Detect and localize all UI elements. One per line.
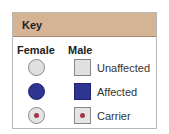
female-unaffected-icon xyxy=(28,59,45,76)
male-carrier-icon xyxy=(74,107,91,124)
carrier-dot-icon xyxy=(34,113,39,118)
carrier-dot-icon xyxy=(80,113,85,118)
female-carrier-icon xyxy=(28,107,45,124)
pedigree-key: Key Female Male Unaffected Affected Carr… xyxy=(12,12,157,129)
female-column-header: Female xyxy=(17,44,55,56)
male-column-header: Male xyxy=(68,44,92,56)
affected-label: Affected xyxy=(97,86,137,98)
male-affected-icon xyxy=(74,83,91,100)
unaffected-label: Unaffected xyxy=(97,62,150,74)
male-unaffected-icon xyxy=(74,59,91,76)
key-title: Key xyxy=(13,13,156,37)
female-affected-icon xyxy=(28,83,45,100)
carrier-label: Carrier xyxy=(97,110,131,122)
